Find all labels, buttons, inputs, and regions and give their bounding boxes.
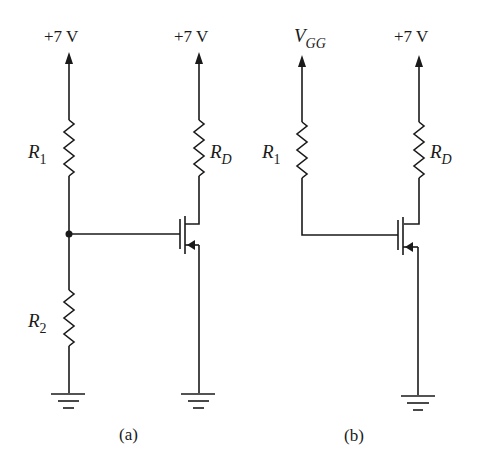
resistor-r1-icon	[297, 122, 307, 178]
resistor-rd-icon	[194, 120, 204, 176]
r2-label: R2	[27, 310, 47, 336]
circuit-b: VGG R1 +7 V RD (b)	[261, 25, 452, 445]
caption-a: (a)	[119, 425, 138, 444]
nmos-transistor-icon	[180, 216, 199, 254]
ground-icon	[401, 396, 435, 410]
circuit-a: +7 V R1 R2 +7 V RD	[27, 27, 232, 444]
rd-label: RD	[209, 141, 232, 167]
vgg-label: VGG	[294, 25, 326, 51]
gate-wire	[302, 178, 398, 235]
drain-wire	[185, 176, 199, 224]
supply-label-a-right: +7 V	[174, 27, 209, 46]
nmos-transistor-icon	[398, 217, 418, 255]
r1-label: R1	[27, 141, 47, 167]
ground-icon	[181, 394, 215, 408]
caption-b: (b)	[344, 426, 364, 445]
resistor-r2-icon	[64, 290, 74, 346]
circuit-figure: +7 V R1 R2 +7 V RD	[0, 0, 481, 467]
drain-wire	[404, 178, 419, 224]
r1-label: R1	[261, 141, 281, 167]
resistor-rd-icon	[414, 122, 424, 178]
supply-label-a-left: +7 V	[44, 27, 79, 46]
rd-label: RD	[429, 141, 452, 167]
supply-label-b-right: +7 V	[394, 27, 429, 46]
ground-icon	[51, 394, 85, 408]
resistor-r1-icon	[64, 120, 74, 176]
